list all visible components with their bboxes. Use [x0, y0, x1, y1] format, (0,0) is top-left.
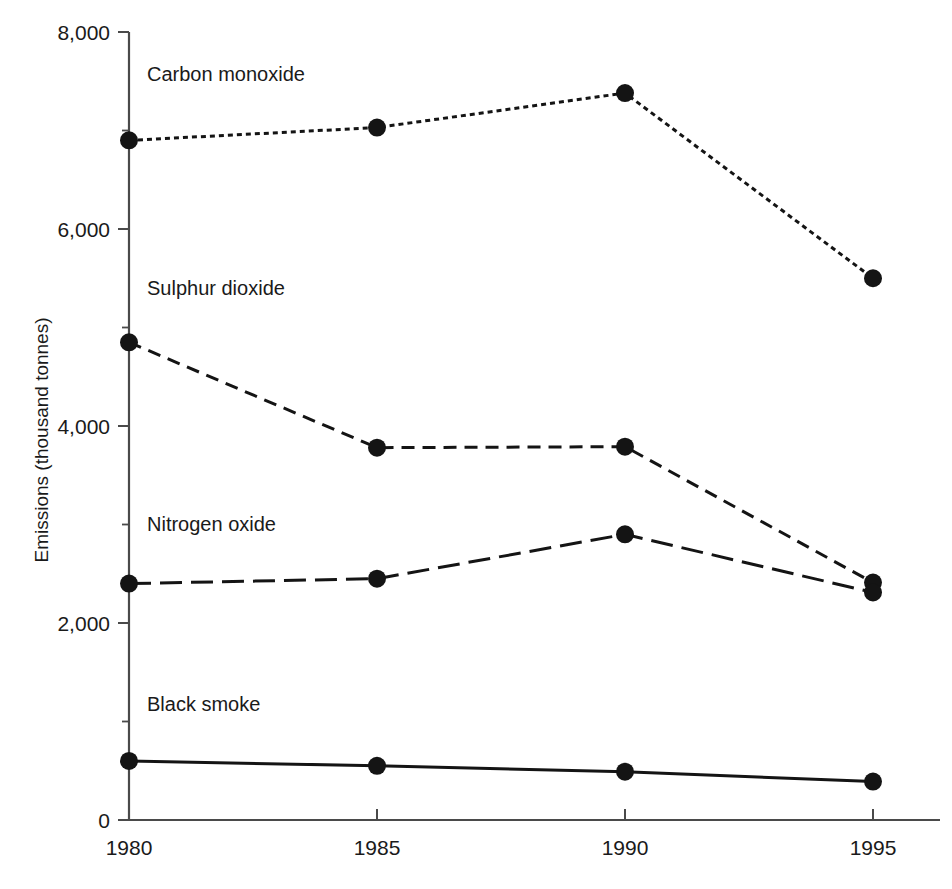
x-tick-label: 1980 [106, 836, 153, 859]
x-axis-tick-labels: 1980198519901995 [106, 836, 897, 859]
y-tick-label: 4,000 [57, 415, 110, 438]
data-point [120, 131, 138, 149]
x-tick-label: 1985 [354, 836, 401, 859]
line-chart: Emissions (thousand tonnes) 02,0004,0006… [0, 0, 952, 889]
data-point [864, 583, 882, 601]
chart-container: Emissions (thousand tonnes) 02,0004,0006… [0, 0, 952, 889]
data-point [616, 525, 634, 543]
y-tick-label: 0 [98, 809, 110, 832]
data-point [616, 438, 634, 456]
y-tick-label: 8,000 [57, 21, 110, 44]
data-point [120, 575, 138, 593]
x-tick-label: 1995 [850, 836, 897, 859]
data-point [368, 570, 386, 588]
series-line-sulphur-dioxide [129, 342, 873, 582]
y-axis-tick-labels: 02,0004,0006,0008,000 [57, 21, 110, 832]
data-point [120, 333, 138, 351]
series-label-sulphur-dioxide: Sulphur dioxide [147, 277, 285, 299]
series-line-nitrogen-oxide [129, 534, 873, 592]
x-tick-label: 1990 [602, 836, 649, 859]
data-point [864, 773, 882, 791]
data-point [616, 84, 634, 102]
series-lines-group [129, 93, 873, 782]
data-point [864, 269, 882, 287]
series-label-nitrogen-oxide: Nitrogen oxide [147, 513, 276, 535]
x-axis-ticks [129, 809, 873, 820]
data-point [120, 752, 138, 770]
y-tick-label: 6,000 [57, 218, 110, 241]
series-line-black-smoke [129, 761, 873, 782]
series-label-carbon-monoxide: Carbon monoxide [147, 63, 305, 85]
series-markers-group [120, 84, 882, 791]
y-tick-label: 2,000 [57, 612, 110, 635]
y-axis-title: Emissions (thousand tonnes) [31, 317, 52, 562]
series-label-black-smoke: Black smoke [147, 693, 260, 715]
y-axis-title-text: Emissions (thousand tonnes) [31, 317, 52, 562]
y-axis-ticks [118, 32, 129, 820]
data-point [368, 757, 386, 775]
series-line-carbon-monoxide [129, 93, 873, 278]
data-point [368, 119, 386, 137]
data-point [368, 439, 386, 457]
series-labels-group: Carbon monoxideSulphur dioxideNitrogen o… [147, 63, 305, 714]
data-point [616, 763, 634, 781]
